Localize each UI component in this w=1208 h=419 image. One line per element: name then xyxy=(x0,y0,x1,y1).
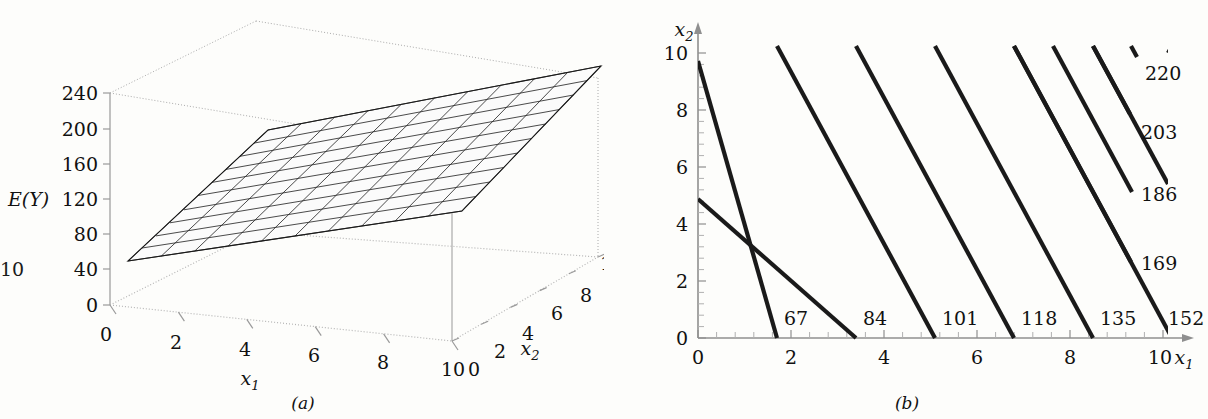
svg-text:x1: x1 xyxy=(1175,346,1194,372)
contour-bottom-labels: 67 84 101 118 135 152 xyxy=(784,307,1204,329)
panel-a-surface-plot: 0 40 80 120 160 200 240 E(Y) xyxy=(0,0,604,419)
contour-label-84: 84 xyxy=(863,307,887,329)
x2-tick-8: 8 xyxy=(580,284,592,306)
x1-axis-ticks xyxy=(110,305,458,350)
contour-label-135: 135 xyxy=(1100,307,1136,329)
cy-label-sub: 2 xyxy=(684,29,693,44)
panel-b-caption: (b) xyxy=(895,393,919,413)
z-tick-80: 80 xyxy=(74,223,98,245)
cy-tick-6: 6 xyxy=(676,156,688,178)
z-tick-0: 0 xyxy=(86,294,98,316)
x1-axis-label: x1 xyxy=(241,367,260,393)
cy-tick-10: 10 xyxy=(664,42,688,64)
x1-tick-6: 6 xyxy=(308,344,320,366)
figure-root: 0 40 80 120 160 200 240 E(Y) xyxy=(0,0,1208,419)
contour-plot-svg: 0 2 4 6 8 10 x1 0 2 4 6 8 10 x2 xyxy=(604,0,1208,419)
cy-tick-0: 0 xyxy=(676,327,688,349)
contour-label-169: 169 xyxy=(1141,252,1177,274)
x2-label-sub: 2 xyxy=(530,348,539,363)
svg-text:x2: x2 xyxy=(675,18,694,44)
surface-plot-svg: 0 40 80 120 160 200 240 E(Y) xyxy=(0,0,604,419)
contour-line-135 xyxy=(935,46,1093,338)
panel-a-caption: (a) xyxy=(291,393,314,413)
x1-tick-2: 2 xyxy=(170,331,182,353)
z-axis-label: E(Y) xyxy=(7,188,49,210)
cx-tick-0: 0 xyxy=(692,346,704,368)
contour-y-tick-labels: 0 2 4 6 8 10 xyxy=(664,42,688,349)
x2-label-main: x xyxy=(521,337,532,359)
x1-label-sub: 1 xyxy=(251,378,259,393)
cy-label-main: x xyxy=(675,18,686,40)
z-tick-200: 200 xyxy=(62,118,98,140)
stray-margin-text: 10 xyxy=(0,258,24,280)
z-axis-tick-labels: 0 40 80 120 160 200 240 xyxy=(62,82,98,316)
z-tick-120: 120 xyxy=(62,188,98,210)
cx-tick-2: 2 xyxy=(785,346,797,368)
y-axis-arrow xyxy=(694,22,702,34)
cy-tick-2: 2 xyxy=(676,270,688,292)
contour-y-major-ticks xyxy=(698,53,706,338)
contour-label-152: 152 xyxy=(1168,307,1204,329)
x-axis-arrow xyxy=(1182,334,1194,342)
x2-tick-6: 6 xyxy=(551,302,563,324)
contour-line-203-upper xyxy=(1093,46,1130,114)
contour-line-101 xyxy=(777,46,935,338)
contour-line-84 xyxy=(698,199,856,338)
x1-tick-10: 10 xyxy=(441,358,465,380)
x1-axis-tick-labels: 0 2 4 6 8 10 xyxy=(100,323,465,380)
z-axis-ticks xyxy=(103,93,110,305)
x1-label-main: x xyxy=(241,367,252,389)
contour-axes xyxy=(694,22,1194,342)
x2-tick-2: 2 xyxy=(494,340,506,362)
contour-label-118: 118 xyxy=(1021,307,1057,329)
cx-tick-8: 8 xyxy=(1064,346,1076,368)
contour-x-axis-label: x1 xyxy=(1175,346,1194,372)
contour-label-186: 186 xyxy=(1141,183,1177,205)
z-tick-40: 40 xyxy=(74,258,98,280)
contour-label-101: 101 xyxy=(942,307,978,329)
contour-line-220-stub xyxy=(1131,46,1137,57)
contour-line-186 xyxy=(1168,46,1172,53)
cy-tick-8: 8 xyxy=(676,99,688,121)
x2-axis-label: x2 xyxy=(521,337,540,363)
x2-tick-0: 0 xyxy=(468,358,480,380)
contour-line-186-upper xyxy=(1053,46,1132,192)
cx-label-main: x xyxy=(1175,346,1186,368)
contour-label-67: 67 xyxy=(784,307,808,329)
contour-label-220: 220 xyxy=(1145,62,1181,84)
svg-text:x2: x2 xyxy=(521,337,540,363)
panel-b-contour-plot: 0 2 4 6 8 10 x1 0 2 4 6 8 10 x2 xyxy=(604,0,1208,419)
z-tick-240: 240 xyxy=(62,82,98,104)
contour-line-67 xyxy=(698,61,777,338)
cy-tick-4: 4 xyxy=(676,213,688,235)
cx-tick-6: 6 xyxy=(971,346,983,368)
contour-y-minor-ticks xyxy=(698,64,704,326)
contour-line-118 xyxy=(856,46,1014,338)
contour-x-tick-labels: 0 2 4 6 8 10 xyxy=(692,346,1172,368)
cx-label-sub: 1 xyxy=(1185,357,1193,372)
x1-tick-4: 4 xyxy=(239,338,251,360)
z-tick-160: 160 xyxy=(62,153,98,175)
x1-tick-8: 8 xyxy=(377,351,389,373)
cx-tick-10: 10 xyxy=(1148,346,1172,368)
svg-text:x1: x1 xyxy=(241,367,260,393)
contour-label-203: 203 xyxy=(1141,121,1177,143)
cx-tick-4: 4 xyxy=(878,346,890,368)
contour-y-axis-label: x2 xyxy=(675,18,694,44)
surface-mesh xyxy=(128,66,601,261)
x1-tick-0: 0 xyxy=(100,323,112,345)
contour-lines xyxy=(698,46,1172,338)
